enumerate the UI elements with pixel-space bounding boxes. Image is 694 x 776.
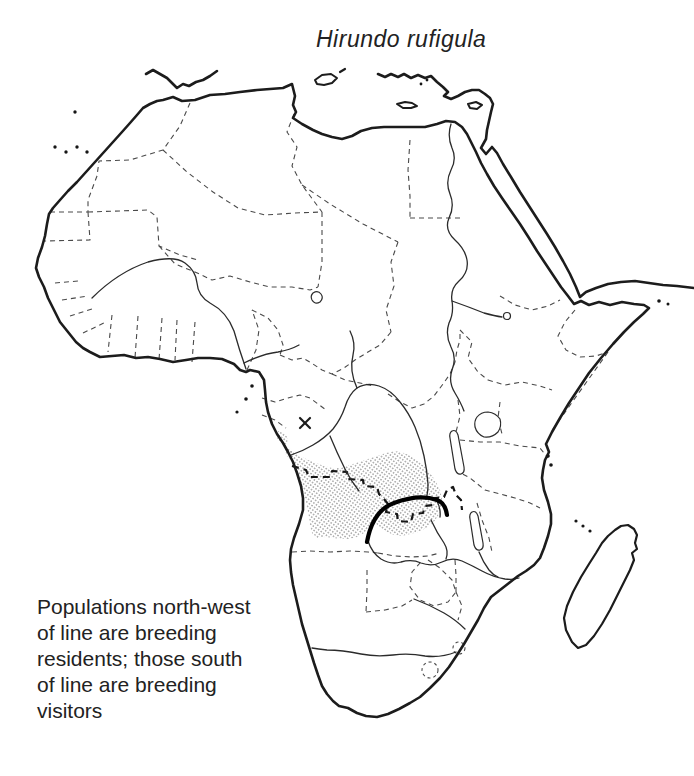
zanzibar-dot (546, 454, 550, 458)
lake-malawi (470, 512, 483, 551)
caption-line: residents; those south (37, 646, 251, 672)
canary-dot (75, 145, 78, 148)
bioko-dot (250, 384, 254, 388)
comoros-dot (588, 529, 591, 532)
shire-river (479, 552, 498, 577)
cyprus-island (468, 102, 482, 109)
sicily-island (315, 74, 337, 85)
caption-line: of line are breeding (37, 672, 251, 698)
page: Hirundo rufigula (0, 0, 694, 776)
aegean-dot (426, 79, 429, 82)
zambezi-river (368, 541, 519, 579)
crete-island (397, 102, 417, 108)
map-caption: Populations north-west of line are breed… (37, 594, 251, 724)
limpopo-river (414, 599, 465, 629)
rivers (92, 124, 519, 657)
lake-tana (504, 313, 511, 320)
canary-dot (64, 150, 67, 153)
madagascar-island (564, 525, 637, 648)
lake-victoria (475, 412, 501, 437)
socotra-dot (667, 303, 670, 306)
orange-river (312, 648, 456, 657)
lesotho-outline (422, 662, 438, 678)
lake-tanganyika (450, 431, 464, 475)
caption-line: of line are breeding (37, 620, 251, 646)
aegean-dot (420, 83, 423, 86)
x-mark (300, 418, 310, 428)
blue-nile-river (452, 301, 502, 317)
caption-line: visitors (37, 698, 251, 724)
canary-dot (85, 150, 88, 153)
coastline-europe (146, 70, 217, 88)
caption-line: Populations north-west (37, 594, 251, 620)
benue-river (244, 345, 299, 363)
annobon-dot (235, 410, 238, 413)
italy-tip (340, 69, 345, 72)
nile-river (447, 124, 467, 411)
coastline-asia (378, 74, 694, 297)
pemba-dot (549, 463, 553, 467)
sao-tome-dot (244, 397, 248, 401)
country-borders (44, 103, 608, 678)
comoros-dot (581, 524, 584, 527)
kafue-river (431, 520, 447, 559)
madeira-dot (73, 110, 76, 113)
lake-chad (311, 292, 322, 303)
comoros-dot (574, 519, 577, 522)
canary-dot (53, 145, 56, 148)
niger-river (92, 259, 246, 369)
socotra-dot (657, 299, 661, 303)
breeding-range-main (284, 445, 442, 539)
